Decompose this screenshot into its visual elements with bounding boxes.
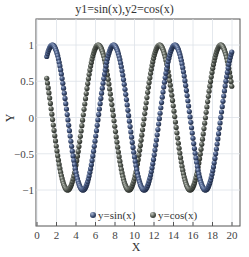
legend-item-cos: y=cos(x) [150, 209, 197, 221]
legend-item-sin: y=sin(x) [90, 209, 135, 221]
x-tick-label: 14 [168, 229, 179, 241]
y-axis-label: Y [3, 114, 18, 123]
x-tick-label: 20 [227, 229, 238, 241]
x-tick-label: 6 [93, 229, 99, 241]
x-tick-label: 16 [188, 229, 199, 241]
x-tick-label: 0 [34, 229, 40, 241]
cos-marker-icon [150, 212, 156, 218]
x-axis-label: X [132, 240, 141, 255]
legend-label-sin: y=sin(x) [98, 209, 135, 221]
y-tick-label: 1 [29, 39, 35, 51]
x-tick-label: 2 [54, 229, 60, 241]
x-tick-label: 4 [73, 229, 79, 241]
x-tick-label: 12 [149, 229, 160, 241]
x-tick-label: 8 [112, 229, 118, 241]
y-tick-label: 0.5 [20, 75, 34, 87]
sin-marker-icon [90, 212, 96, 218]
y-tick-label: −1 [22, 184, 34, 196]
legend-label-cos: y=cos(x) [158, 209, 197, 221]
plot-frame [36, 19, 240, 226]
x-tick-label: 18 [207, 229, 218, 241]
y-tick-label: −0.5 [14, 148, 34, 160]
y-tick-label: 0 [29, 112, 35, 124]
